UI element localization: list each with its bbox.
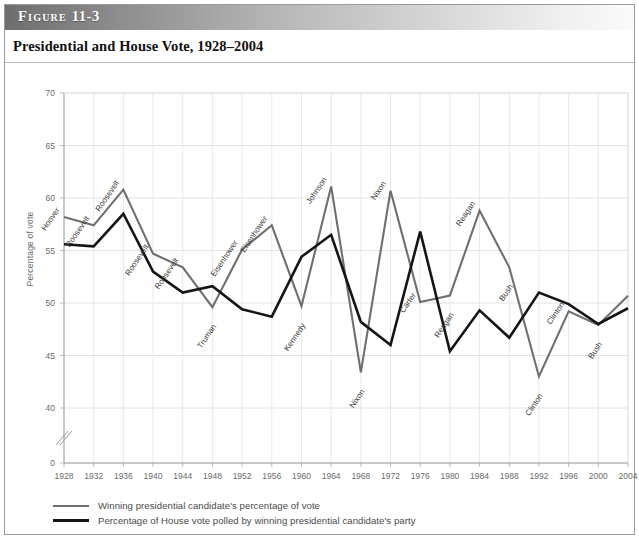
x-tick-label: 1928 xyxy=(55,471,74,481)
x-tick-label: 1952 xyxy=(233,471,252,481)
series-layer xyxy=(64,186,628,376)
x-tick-label: 1940 xyxy=(144,471,163,481)
x-tick-label: 1956 xyxy=(262,471,281,481)
y-tick-label: 65 xyxy=(46,141,56,151)
x-tick-label: 1976 xyxy=(411,471,430,481)
legend-item-house: Percentage of House vote polled by winni… xyxy=(53,513,415,528)
x-tick-label: 1968 xyxy=(351,471,370,481)
legend-item-presidential: Winning presidential candidate's percent… xyxy=(53,498,415,513)
data-point-label: Reagan xyxy=(454,200,477,228)
y-tick-label: 50 xyxy=(46,298,56,308)
y-tick-label: 40 xyxy=(46,403,56,413)
x-tick-label: 1992 xyxy=(529,471,548,481)
x-tick-label: 1972 xyxy=(381,471,400,481)
x-tick-label: 2004 xyxy=(619,471,638,481)
x-tick-label: 1944 xyxy=(173,471,192,481)
x-tick-label: 1948 xyxy=(203,471,222,481)
y-tick-label: 70 xyxy=(46,88,56,98)
x-tick-label: 1960 xyxy=(292,471,311,481)
point-label-layer: HooverRooseveltRooseveltRooseveltRooseve… xyxy=(40,176,604,418)
x-tick-label: 1980 xyxy=(440,471,459,481)
data-point-label: Hoover xyxy=(40,206,62,233)
data-point-label: Clinton xyxy=(523,392,544,418)
legend-label-presidential: Winning presidential candidate's percent… xyxy=(98,500,320,511)
x-tick-label: 1964 xyxy=(322,471,341,481)
data-point-label: Eisenhower xyxy=(209,238,240,278)
data-point-label: Kennedy xyxy=(282,321,307,352)
data-point-label: Bush xyxy=(586,340,604,360)
y-tick-label: 55 xyxy=(46,246,56,256)
x-tick-label: 1984 xyxy=(470,471,489,481)
chart-legend: Winning presidential candidate's percent… xyxy=(53,498,415,528)
figure-panel: Figure 11-3 Presidential and House Vote,… xyxy=(0,0,639,539)
y-tick-label: 60 xyxy=(46,193,56,203)
x-tick-label: 1988 xyxy=(500,471,519,481)
legend-label-house: Percentage of House vote polled by winni… xyxy=(98,515,415,526)
data-point-label: Johnson xyxy=(304,176,328,206)
y-tick-label: 45 xyxy=(46,351,56,361)
x-tick-label: 1996 xyxy=(559,471,578,481)
y-axis-title: Percentage of vote xyxy=(25,189,35,309)
y-tick-label: 0 xyxy=(50,458,55,468)
tick-label-layer: 0404550556065701928193219361940194419481… xyxy=(46,88,638,481)
line-chart: HooverRooseveltRooseveltRooseveltRooseve… xyxy=(0,0,639,495)
data-point-label: Eisenhower xyxy=(239,214,270,254)
legend-swatch-gray-icon xyxy=(53,505,89,507)
x-tick-label: 2000 xyxy=(589,471,608,481)
x-tick-label: 1932 xyxy=(84,471,103,481)
plot-area: HooverRooseveltRooseveltRooseveltRooseve… xyxy=(0,0,639,539)
data-point-label: Nixon xyxy=(348,388,367,410)
legend-swatch-black-icon xyxy=(53,519,89,522)
data-point-label: Bush xyxy=(497,283,515,303)
data-point-label: Reagan xyxy=(433,311,456,339)
data-point-label: Truman xyxy=(196,323,219,351)
x-tick-label: 1936 xyxy=(114,471,133,481)
grid-layer xyxy=(60,93,628,467)
